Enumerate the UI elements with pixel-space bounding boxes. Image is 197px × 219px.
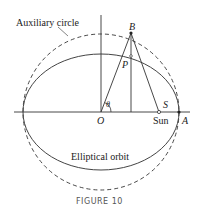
elliptical-orbit-label: Elliptical orbit bbox=[71, 152, 129, 162]
label-S: S bbox=[163, 100, 168, 110]
sun-point bbox=[157, 110, 160, 113]
label-theta: θ bbox=[106, 101, 110, 109]
label-O: O bbox=[97, 116, 104, 126]
label-P: P bbox=[122, 60, 128, 70]
figure: Auxiliary circle B P θ S O Sun A Ellipti… bbox=[0, 0, 197, 219]
label-A: A bbox=[182, 116, 188, 126]
point-A bbox=[177, 110, 180, 113]
point-P bbox=[130, 55, 133, 58]
label-sun: Sun bbox=[153, 116, 169, 126]
figure-caption: FIGURE 10 bbox=[76, 197, 123, 206]
line-BS bbox=[131, 33, 159, 112]
label-leader bbox=[58, 27, 68, 36]
auxiliary-circle-label: Auxiliary circle bbox=[16, 18, 79, 28]
label-B: B bbox=[129, 22, 135, 32]
